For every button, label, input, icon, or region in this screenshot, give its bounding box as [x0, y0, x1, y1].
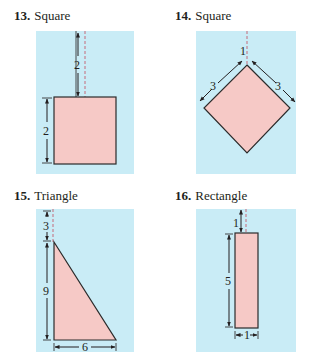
rectangle-shape [235, 233, 258, 328]
dim-right-side: 3 [275, 79, 281, 93]
dim-left-side: 3 [210, 79, 216, 93]
dim-width: 1 [244, 328, 250, 342]
dim-gap-above: 1 [240, 44, 246, 58]
dim-gap-above: 1 [233, 216, 239, 230]
problem-14-figure: 1 3 3 [0, 0, 323, 180]
problem-16-figure: 1 5 1 [0, 180, 323, 361]
dim-height: 5 [225, 274, 231, 288]
